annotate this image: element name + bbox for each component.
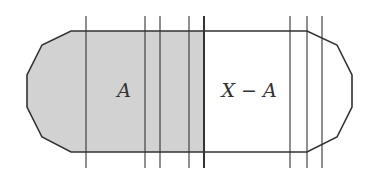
label-x-minus-a: X − A bbox=[219, 79, 276, 101]
set-partition-diagram: A X − A bbox=[0, 0, 369, 174]
label-a: A bbox=[115, 79, 131, 101]
region-a-shaded bbox=[27, 31, 204, 152]
